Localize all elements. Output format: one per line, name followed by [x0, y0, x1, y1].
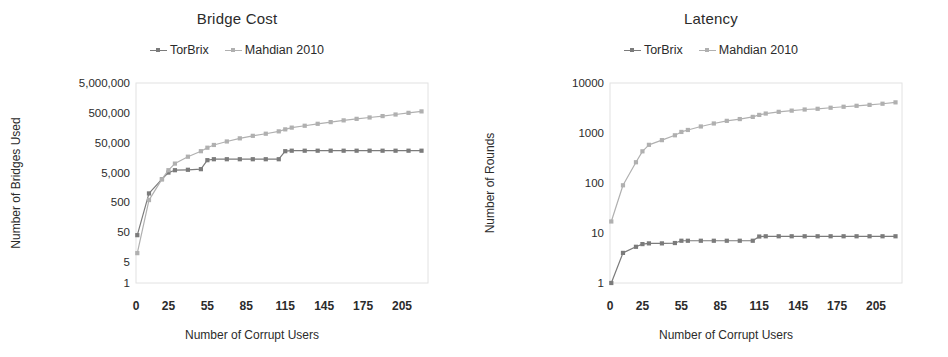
data-point-marker: [212, 157, 216, 161]
x-axis-tick-label: 145: [314, 299, 334, 313]
x-axis-tick-label: 175: [353, 299, 373, 313]
data-point-marker: [135, 233, 139, 237]
legend-marker-icon: [150, 46, 167, 55]
data-point-marker: [699, 239, 703, 243]
data-point-marker: [751, 115, 755, 119]
data-point-marker: [738, 239, 742, 243]
y-axis-tick-label: 500,000: [40, 107, 130, 119]
data-point-marker: [419, 149, 423, 153]
series-line: [611, 102, 895, 221]
x-axis-tick-label: 0: [133, 299, 140, 313]
data-point-marker: [725, 239, 729, 243]
series-line: [611, 236, 895, 283]
y-axis-tick-label: 5,000,000: [40, 77, 130, 89]
data-point-marker: [880, 102, 884, 106]
data-point-marker: [251, 134, 255, 138]
data-point-marker: [316, 122, 320, 126]
data-point-marker: [751, 239, 755, 243]
series-mahdian-2010: [135, 109, 423, 255]
y-axis-tick-label: 500: [40, 196, 130, 208]
legend-label: Mahdian 2010: [245, 44, 324, 57]
data-point-marker: [199, 167, 203, 171]
data-point-marker: [166, 170, 170, 174]
data-point-marker: [640, 149, 644, 153]
data-point-marker: [647, 143, 651, 147]
data-point-marker: [660, 241, 664, 245]
chart-panel-latency: LatencyTorBrixMahdian 2010Number of Roun…: [474, 0, 948, 357]
data-point-marker: [609, 219, 613, 223]
legend-label: TorBrix: [170, 44, 209, 57]
data-point-marker: [738, 117, 742, 121]
data-point-marker: [380, 114, 384, 118]
data-point-marker: [173, 161, 177, 165]
y-axis-tick-label: 10000: [514, 77, 604, 89]
data-point-marker: [173, 168, 177, 172]
data-point-marker: [816, 234, 820, 238]
chart-legend: TorBrixMahdian 2010: [474, 44, 948, 57]
data-point-marker: [277, 157, 281, 161]
x-axis-tick-label: 25: [162, 299, 175, 313]
data-point-marker: [251, 157, 255, 161]
y-axis-tick-label: 100: [514, 177, 604, 189]
x-axis-tick-label: 115: [276, 299, 295, 313]
y-axis-tick-label: 5: [40, 256, 130, 268]
y-axis-label: Number of Rounds: [483, 103, 497, 263]
data-point-marker: [342, 149, 346, 153]
data-point-marker: [329, 120, 333, 124]
series-torbrix: [609, 234, 897, 285]
data-point-marker: [160, 177, 164, 181]
legend-marker-icon: [699, 46, 716, 55]
data-point-marker: [147, 191, 151, 195]
y-axis-label: Number of Bridges Used: [9, 103, 23, 263]
data-point-marker: [803, 234, 807, 238]
series-mahdian-2010: [609, 100, 897, 223]
data-point-marker: [829, 106, 833, 110]
data-point-marker: [406, 149, 410, 153]
data-point-marker: [212, 143, 216, 147]
data-point-marker: [757, 234, 761, 238]
data-point-marker: [406, 111, 410, 115]
data-point-marker: [329, 149, 333, 153]
y-axis-tick-label: 1: [514, 277, 604, 289]
data-point-marker: [290, 126, 294, 130]
data-point-marker: [393, 149, 397, 153]
data-point-marker: [725, 119, 729, 123]
y-axis-tick-label: 1: [40, 277, 130, 289]
data-point-marker: [647, 241, 651, 245]
data-point-marker: [147, 198, 151, 202]
data-point-marker: [368, 115, 372, 119]
data-point-marker: [368, 149, 372, 153]
data-point-marker: [634, 245, 638, 249]
data-point-marker: [673, 241, 677, 245]
data-point-marker: [621, 251, 625, 255]
legend-entry-mahdian-2010: Mahdian 2010: [225, 44, 324, 57]
x-axis-tick-label: 85: [240, 299, 253, 313]
data-point-marker: [290, 149, 294, 153]
data-point-marker: [640, 242, 644, 246]
data-point-marker: [790, 109, 794, 113]
data-point-marker: [803, 107, 807, 111]
legend-entry-torbrix: TorBrix: [624, 44, 683, 57]
data-point-marker: [660, 138, 664, 142]
x-axis-tick-label: 205: [392, 299, 412, 313]
data-point-marker: [160, 177, 164, 181]
data-point-marker: [355, 149, 359, 153]
legend-marker-icon: [624, 46, 641, 55]
data-point-marker: [893, 234, 897, 238]
data-point-marker: [893, 100, 897, 104]
x-axis-tick-label: 205: [866, 299, 886, 313]
data-point-marker: [829, 234, 833, 238]
plot-frame: [136, 83, 428, 283]
data-point-marker: [790, 234, 794, 238]
data-point-marker: [166, 168, 170, 172]
data-point-marker: [816, 107, 820, 111]
data-point-marker: [699, 124, 703, 128]
data-point-marker: [621, 183, 625, 187]
chart-title: Bridge Cost: [0, 10, 474, 27]
data-point-marker: [854, 104, 858, 108]
x-axis-label: Number of Corrupt Users: [474, 328, 948, 342]
legend-label: TorBrix: [644, 44, 683, 57]
data-point-marker: [225, 157, 229, 161]
data-point-marker: [777, 234, 781, 238]
data-point-marker: [712, 121, 716, 125]
